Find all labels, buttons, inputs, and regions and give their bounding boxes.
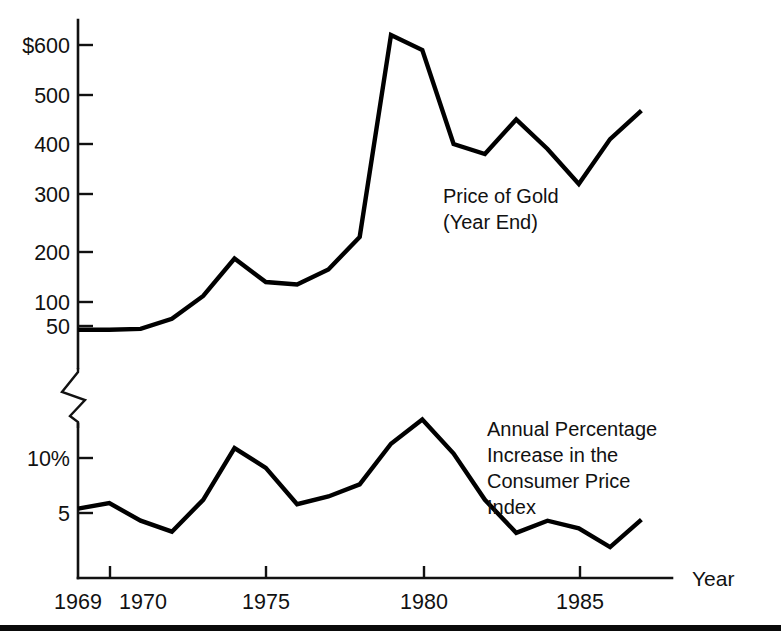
gold-ticklabel-200: 200 xyxy=(34,241,70,265)
axis-break xyxy=(62,368,85,428)
x-axis-group: 1969 1970 1975 1980 1985 Year xyxy=(54,566,734,614)
cpi-annotation-line-4: Index xyxy=(487,496,536,518)
gold-ticklabel-500: 500 xyxy=(34,84,70,108)
gold-ticklabel-50: 50 xyxy=(46,315,70,339)
gold-vs-cpi-chart: $600 500 400 300 200 100 50 Price of Gol… xyxy=(0,0,781,639)
gold-y-ticks xyxy=(78,45,93,326)
cpi-annotation-line-3: Consumer Price xyxy=(487,470,630,492)
cpi-ticklabel-10pct: 10% xyxy=(27,447,70,471)
gold-ticklabel-300: 300 xyxy=(34,183,70,207)
cpi-panel: 10% 5 Annual Percentage Increase in the … xyxy=(27,418,657,578)
gold-ticklabel-600: $600 xyxy=(22,34,70,58)
cpi-annotation-line-1: Annual Percentage xyxy=(487,418,657,440)
chart-figure: $600 500 400 300 200 100 50 Price of Gol… xyxy=(0,0,781,639)
gold-annotation-line-1: Price of Gold xyxy=(443,185,559,207)
x-ticklabel-1970: 1970 xyxy=(119,590,167,614)
gold-annotation-line-2: (Year End) xyxy=(443,211,538,233)
bottom-divider-rule xyxy=(0,625,781,631)
cpi-annotation-line-2: Increase in the xyxy=(487,444,618,466)
gold-ticklabel-400: 400 xyxy=(34,133,70,157)
x-ticklabel-1969: 1969 xyxy=(54,590,102,614)
x-ticklabel-1975: 1975 xyxy=(242,590,290,614)
gold-panel: $600 500 400 300 200 100 50 Price of Gol… xyxy=(22,20,641,368)
x-axis-title: Year xyxy=(692,567,734,590)
cpi-ticklabel-5: 5 xyxy=(58,502,70,526)
gold-price-line xyxy=(78,35,641,330)
x-ticklabel-1985: 1980 xyxy=(400,590,448,614)
gold-ticklabel-100: 100 xyxy=(34,291,70,315)
x-ticklabel-1985b: 1985 xyxy=(556,590,604,614)
